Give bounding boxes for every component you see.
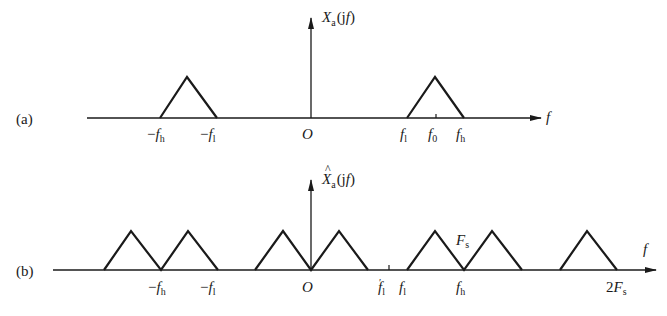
panel-b-tick-fl: fl — [399, 279, 406, 297]
panel-a-tick-f0: f0 — [428, 126, 437, 144]
panel-b-tick-fh: fh — [456, 279, 465, 297]
panel-a-tick-fh: fh — [456, 126, 465, 144]
panel-b-tick-fl-prime: fl′ — [378, 277, 385, 297]
panel-a-tick-neg-fl: −fl — [200, 126, 216, 144]
panel-a-positive-band-triangle — [407, 77, 464, 118]
panel-b-tag: (b) — [16, 263, 34, 280]
panel-a-negative-band-triangle — [160, 77, 217, 118]
panel-a-xlabel: f — [546, 109, 552, 125]
panel-a-tag: (a) — [16, 111, 33, 128]
panel-b-negative-replicas — [104, 231, 218, 270]
panel-b-tick-neg-fl: −fl — [200, 279, 216, 297]
panel-b-tick-2fs: 2Fs — [606, 279, 627, 297]
sampling-spectrum-diagram: (a) Xa(jf) f O −fh −fl fl f0 fh (b) — [0, 0, 667, 316]
panel-b-fs-annotation: Fs — [455, 232, 469, 250]
panel-a-origin: O — [302, 126, 313, 142]
panel-b-tick-neg-fh: −fh — [148, 279, 166, 297]
panel-b-xlabel: f — [643, 241, 649, 257]
panel-b: (b) Xa(jf) ^ Fs f O −fh −fl fl′ fl fh 2F… — [16, 162, 656, 297]
panel-a-tick-neg-fh: −fh — [147, 126, 165, 144]
panel-a-tick-fl: fl — [400, 126, 407, 144]
panel-a: (a) Xa(jf) f O −fh −fl fl f0 fh — [16, 9, 552, 144]
panel-b-hat-icon: ^ — [325, 162, 331, 176]
panel-b-origin: O — [302, 279, 313, 295]
panel-a-ylabel: Xa(jf) — [321, 9, 355, 28]
panel-b-2fs-replica — [560, 231, 617, 270]
